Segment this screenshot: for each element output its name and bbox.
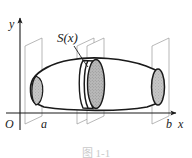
cross-section-disc — [88, 60, 105, 109]
left-bound-label: a — [41, 117, 47, 131]
cross-section-label: S(x) — [57, 30, 78, 45]
origin-label: O — [5, 117, 14, 131]
right-end-cap — [152, 69, 165, 105]
figure-caption: 图 1-1 — [82, 147, 110, 158]
solid-cross-section-diagram: S(x) y x O a b 图 1-1 — [0, 0, 192, 158]
solid-body — [31, 58, 165, 110]
x-axis-label: x — [177, 117, 184, 131]
y-axis-label: y — [8, 17, 15, 31]
left-end-cap — [32, 76, 43, 105]
figure-container: S(x) y x O a b 图 1-1 — [0, 0, 192, 158]
right-bound-label: b — [166, 117, 172, 131]
